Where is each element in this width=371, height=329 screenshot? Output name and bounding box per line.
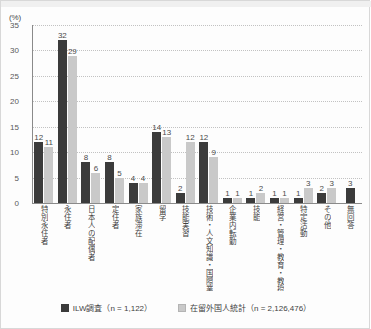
bar[interactable] bbox=[91, 173, 100, 204]
x-axis-label: 定住者 bbox=[110, 205, 119, 229]
y-tick-label-20: 20 bbox=[0, 97, 19, 106]
x-axis-label: 特定活動 bbox=[299, 205, 308, 237]
bar-column: 8 bbox=[105, 25, 114, 203]
bar-column: 12 bbox=[34, 25, 43, 203]
y-tick-label-15: 15 bbox=[0, 122, 19, 131]
bar[interactable] bbox=[105, 162, 114, 203]
bar-column: 2 bbox=[176, 25, 185, 203]
x-axis-label: 永住者 bbox=[63, 205, 72, 229]
bar-value-label: 14 bbox=[152, 123, 161, 132]
bar[interactable] bbox=[176, 193, 185, 203]
x-label-cell: 留学 bbox=[150, 205, 174, 293]
bar[interactable] bbox=[58, 40, 67, 203]
bar-value-label: 2 bbox=[259, 184, 263, 193]
bar[interactable] bbox=[68, 56, 77, 203]
bar[interactable] bbox=[317, 193, 326, 203]
x-label-cell: 永住者 bbox=[56, 205, 80, 293]
bar-group: 212 bbox=[173, 25, 197, 203]
bar-column: 3 bbox=[327, 25, 336, 203]
bar[interactable] bbox=[294, 198, 303, 203]
x-axis-label: 技術・人文知識・国際業務 bbox=[204, 205, 213, 291]
bar-value-label: 29 bbox=[68, 47, 77, 56]
bar-groups: 12113229868544141321212911121113233 bbox=[32, 25, 362, 203]
legend-item[interactable]: ILW調査（n = 1,122） bbox=[61, 302, 152, 313]
bar-value-label: 11 bbox=[45, 138, 53, 147]
bar-value-label: 1 bbox=[272, 189, 276, 198]
bar[interactable] bbox=[139, 183, 148, 203]
bar-group: 3229 bbox=[56, 25, 80, 203]
bar[interactable] bbox=[162, 137, 171, 203]
bar-column: 2 bbox=[256, 25, 265, 203]
bar-column: 5 bbox=[115, 25, 124, 203]
bar-column: 3 bbox=[346, 25, 355, 203]
x-axis-label: 日本人の配偶者 bbox=[86, 205, 95, 261]
x-axis-label: その他 bbox=[322, 205, 331, 229]
x-label-cell: 技能 bbox=[244, 205, 268, 293]
bar-column: 4 bbox=[139, 25, 148, 203]
y-tick-label-5: 5 bbox=[0, 173, 19, 182]
legend-item[interactable]: 在留外国人統計（n = 2,126,476） bbox=[178, 302, 311, 313]
bar[interactable] bbox=[223, 198, 232, 203]
bar-value-label: 2 bbox=[178, 184, 182, 193]
bar-column: 14 bbox=[152, 25, 161, 203]
bar[interactable] bbox=[44, 147, 53, 203]
bar-column: 8 bbox=[81, 25, 90, 203]
bar[interactable] bbox=[256, 193, 265, 203]
bar-column: 1 bbox=[223, 25, 232, 203]
x-axis-label: 技能実習 bbox=[181, 205, 190, 237]
bar-column: 11 bbox=[44, 25, 53, 203]
x-axis-label: 留学 bbox=[157, 205, 166, 221]
bar[interactable] bbox=[34, 142, 43, 203]
bar-group: 13 bbox=[291, 25, 315, 203]
bar-group: 11 bbox=[268, 25, 292, 203]
bar[interactable] bbox=[199, 142, 208, 203]
bar-value-label: 1 bbox=[225, 189, 229, 198]
x-axis-label: 無回答 bbox=[346, 205, 355, 229]
bar-group: 85 bbox=[103, 25, 127, 203]
bar[interactable] bbox=[186, 142, 195, 203]
bar-value-label: 4 bbox=[131, 174, 135, 183]
bar[interactable] bbox=[304, 188, 313, 203]
bar-value-label: 8 bbox=[107, 153, 111, 162]
bar-value-label: 12 bbox=[199, 133, 208, 142]
x-axis-label: 企業内転勤 bbox=[228, 205, 237, 245]
bar[interactable] bbox=[270, 198, 279, 203]
bar-value-label: 1 bbox=[282, 189, 286, 198]
y-tick-label-10: 10 bbox=[0, 148, 19, 157]
bar-column: 2 bbox=[317, 25, 326, 203]
bar-value-label: 9 bbox=[212, 148, 216, 157]
bar-column: 1 bbox=[233, 25, 242, 203]
plot-area: 05101520253035 1211322986854414132121291… bbox=[32, 25, 362, 203]
bar-column: 1 bbox=[270, 25, 279, 203]
bar[interactable] bbox=[280, 198, 289, 203]
bar[interactable] bbox=[115, 178, 124, 203]
bar[interactable] bbox=[129, 183, 138, 203]
bar[interactable] bbox=[81, 162, 90, 203]
bar[interactable] bbox=[327, 188, 336, 203]
x-label-cell: 家族滞在 bbox=[126, 205, 150, 293]
bar[interactable] bbox=[246, 198, 255, 203]
bar-column: 29 bbox=[68, 25, 77, 203]
bar-group: 129 bbox=[197, 25, 221, 203]
bar-column: 9 bbox=[209, 25, 218, 203]
bar[interactable] bbox=[233, 198, 242, 203]
bar-column: 1 bbox=[246, 25, 255, 203]
legend-label: ILW調査（n = 1,122） bbox=[73, 302, 152, 313]
bar-value-label: 6 bbox=[94, 164, 98, 173]
y-tick-label-0: 0 bbox=[0, 199, 19, 208]
bar-group: 12 bbox=[244, 25, 268, 203]
bar[interactable] bbox=[346, 188, 355, 203]
bar-value-label: 3 bbox=[329, 179, 333, 188]
bar-value-label: 2 bbox=[319, 184, 323, 193]
bar-value-label: 1 bbox=[249, 189, 253, 198]
x-axis-label: 特別永住者 bbox=[39, 205, 48, 245]
bar-column: 12 bbox=[199, 25, 208, 203]
top-edge-band bbox=[1, 1, 371, 7]
bar[interactable] bbox=[209, 157, 218, 203]
bar[interactable] bbox=[152, 132, 161, 203]
bar-group: 1413 bbox=[150, 25, 174, 203]
bar-column: 13 bbox=[162, 25, 171, 203]
bar-column: 4 bbox=[129, 25, 138, 203]
x-label-cell: 経営・管理・教育・教授 bbox=[268, 205, 292, 293]
